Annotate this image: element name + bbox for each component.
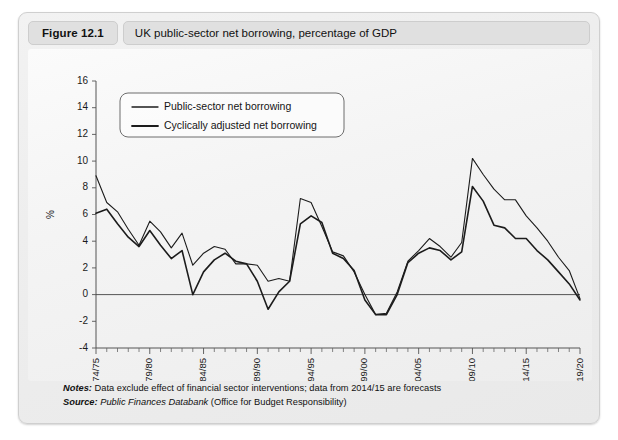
x-tick-label: 2009/10	[466, 358, 477, 381]
x-tick-label: 1989/90	[251, 358, 262, 381]
figure-card: Figure 12.1 UK public-sector net borrowi…	[18, 12, 600, 424]
y-tick-label: 14	[77, 101, 89, 112]
source-organisation: (Office for Budget Responsibility)	[208, 397, 346, 407]
line-chart: 1614121086420-2-4%1974/751979/801984/851…	[28, 49, 592, 381]
notes-text: Data exclude effect of financial sector …	[92, 383, 441, 393]
x-tick-label: 2014/15	[520, 358, 531, 381]
x-tick-label: 1979/80	[143, 358, 154, 381]
source-lead: Source:	[63, 397, 98, 407]
y-tick-label: 12	[77, 128, 89, 139]
source-publication: Public Finances Databank	[98, 397, 209, 407]
chart-plot-panel: 1614121086420-2-4%1974/751979/801984/851…	[28, 49, 592, 381]
series-line-1	[96, 158, 580, 314]
x-tick-label: 1994/95	[305, 358, 316, 381]
y-tick-label: -2	[79, 315, 88, 326]
x-tick-label: 2004/05	[412, 358, 423, 381]
y-axis-title: %	[45, 210, 56, 219]
y-tick-label: 0	[82, 288, 88, 299]
x-tick-label: 1984/85	[197, 358, 208, 381]
series-line-2	[96, 186, 580, 314]
y-tick-label: 4	[82, 235, 88, 246]
figure-header: Figure 12.1 UK public-sector net borrowi…	[28, 21, 590, 45]
y-tick-label: 2	[82, 262, 88, 273]
y-tick-label: 10	[77, 155, 89, 166]
notes-lead: Notes:	[63, 383, 92, 393]
figure-number-label: Figure 12.1	[28, 21, 118, 45]
figure-title: UK public-sector net borrowing, percenta…	[123, 21, 590, 45]
figure-footnotes: Notes: Data exclude effect of financial …	[63, 381, 585, 410]
source-line: Source: Public Finances Databank (Office…	[63, 395, 585, 409]
legend-label-2: Cyclically adjusted net borrowing	[164, 119, 317, 131]
x-tick-label: 1974/75	[90, 358, 101, 381]
y-tick-label: -4	[79, 342, 88, 353]
x-tick-label: 2019/20	[574, 358, 585, 381]
y-tick-label: 16	[77, 75, 89, 86]
x-tick-label: 1999/00	[358, 358, 369, 381]
y-tick-label: 8	[82, 181, 88, 192]
y-tick-label: 6	[82, 208, 88, 219]
legend-label-1: Public-sector net borrowing	[164, 100, 291, 112]
notes-line: Notes: Data exclude effect of financial …	[63, 381, 585, 395]
